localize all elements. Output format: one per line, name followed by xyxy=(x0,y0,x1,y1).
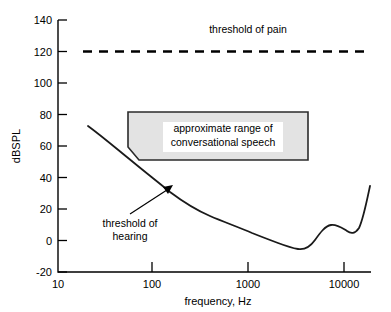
y-tick-label-20: 20 xyxy=(40,203,52,215)
threshold-of-hearing-leader xyxy=(130,188,170,214)
x-tick-label-100: 100 xyxy=(143,278,161,290)
x-axis-title: frequency, Hz xyxy=(184,295,251,307)
y-tick-label-80: 80 xyxy=(40,109,52,121)
x-tick-label-1000: 1000 xyxy=(236,278,260,290)
threshold-of-hearing-annotation: threshold of hearing xyxy=(103,185,173,242)
chart-canvas: 140 120 100 80 60 40 20 0 -20 dBSPL 10 1… xyxy=(0,0,391,312)
speech-range-label-line2: conversational speech xyxy=(171,136,276,148)
threshold-of-hearing-label-line1: threshold of xyxy=(103,217,158,229)
speech-range-label-line1: approximate range of xyxy=(173,122,272,134)
y-tick-label-140: 140 xyxy=(34,14,52,26)
y-tick-label-0: 0 xyxy=(46,235,52,247)
y-tick-marks xyxy=(58,20,67,272)
x-tick-label-10: 10 xyxy=(52,278,64,290)
y-tick-labels: 140 120 100 80 60 40 20 0 -20 xyxy=(34,14,52,278)
x-tick-label-10000: 10000 xyxy=(329,278,360,290)
x-tick-marks xyxy=(152,262,344,272)
y-tick-label-neg20: -20 xyxy=(36,266,52,278)
threshold-of-pain-label: threshold of pain xyxy=(209,23,287,35)
threshold-of-hearing-label-line2: hearing xyxy=(112,230,147,242)
y-tick-label-100: 100 xyxy=(34,77,52,89)
x-tick-labels: 10 100 1000 10000 xyxy=(52,278,359,290)
y-tick-label-40: 40 xyxy=(40,172,52,184)
y-tick-label-120: 120 xyxy=(34,46,52,58)
y-axis-title: dBSPL xyxy=(10,129,22,163)
y-tick-label-60: 60 xyxy=(40,140,52,152)
hearing-threshold-chart: 140 120 100 80 60 40 20 0 -20 dBSPL 10 1… xyxy=(0,0,391,312)
